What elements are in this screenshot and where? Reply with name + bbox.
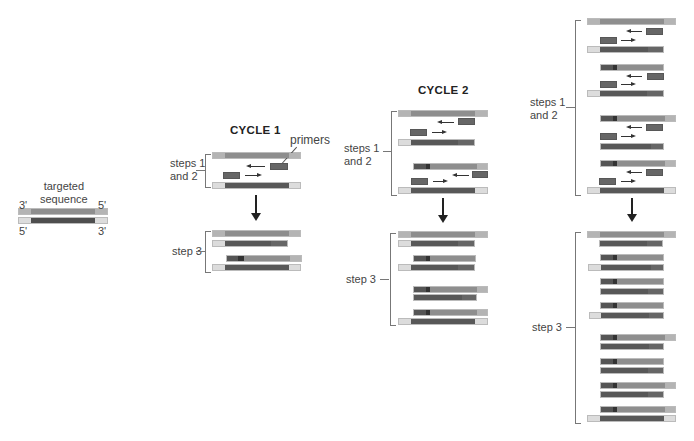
c1-s3-strand-2 — [212, 240, 288, 247]
down-arrow-icon — [442, 198, 444, 216]
c3-s3-strand — [587, 231, 676, 238]
primer-reverse — [647, 73, 664, 80]
left-arrow-icon — [250, 166, 265, 167]
end-5-bottom-label: 5' — [19, 225, 27, 238]
targeted-sequence-label: targeted sequence — [40, 180, 88, 206]
c2-s3-strand — [413, 255, 476, 262]
cycle-3-step-3-label: step 3 — [532, 321, 562, 334]
primer-forward — [411, 178, 428, 185]
cycle-1-title: CYCLE 1 — [230, 124, 281, 136]
c3-s3-strand — [588, 264, 664, 271]
left-arrow-icon — [630, 172, 642, 173]
c3-s3-strand — [600, 334, 676, 341]
left-arrow-icon — [630, 31, 642, 32]
down-arrow-icon — [631, 198, 633, 215]
right-arrow-icon — [433, 181, 444, 182]
c2-s12-strand — [398, 187, 488, 194]
primer-reverse — [458, 118, 475, 125]
pcr-diagram: targeted sequence 3' 5' 5' 3' CYCLE 1 pr… — [0, 0, 694, 441]
left-arrow-icon — [441, 122, 454, 123]
primer-forward — [600, 133, 617, 140]
c3-s3-strand — [600, 343, 664, 350]
cycle-2-steps-bracket — [391, 111, 397, 196]
c3-s3-strand — [599, 240, 663, 247]
c3-s12-strand — [587, 90, 664, 97]
primer-reverse — [646, 124, 663, 131]
c1-s3-strand-4 — [212, 264, 301, 271]
c2-s3-strand — [398, 240, 475, 247]
primer-reverse — [472, 171, 488, 178]
left-arrow-icon — [456, 175, 469, 176]
c2-s12-strand — [398, 139, 475, 146]
cycle-3-step3-bracket — [575, 232, 581, 424]
cycle-3-steps-bracket — [575, 20, 581, 196]
left-arrow-icon — [630, 127, 642, 128]
bracket-tick — [566, 107, 575, 108]
primer-reverse — [646, 28, 663, 35]
c2-s3-strand — [398, 264, 475, 271]
right-arrow-icon — [432, 132, 443, 133]
cycle-1-steps-bracket — [205, 154, 211, 188]
c3-s3-strand — [600, 254, 664, 261]
right-arrow-icon — [621, 84, 632, 85]
c3-s3-strand — [600, 302, 664, 309]
end-3-bottom-label: 3' — [98, 225, 106, 238]
right-arrow-icon — [621, 136, 632, 137]
c2-s3-strand — [413, 294, 477, 301]
c3-s12-strand — [587, 187, 676, 194]
c3-s3-strand — [589, 312, 664, 319]
c2-s12-strand — [413, 163, 488, 170]
cycle-2-steps-1-2-label: steps 1 and 2 — [344, 142, 379, 168]
bracket-tick — [566, 327, 575, 328]
right-arrow-icon — [621, 40, 632, 41]
c1-s3-strand-1 — [212, 230, 301, 237]
c3-s12-strand — [600, 115, 676, 122]
c2-s3-strand — [413, 286, 488, 293]
c3-s3-strand — [600, 382, 676, 389]
target-top-strand — [18, 208, 108, 215]
primer-reverse — [270, 163, 288, 170]
primer-forward — [223, 172, 240, 179]
bracket-tick — [196, 251, 205, 252]
c3-s3-strand — [600, 278, 664, 285]
c2-s3-strand — [398, 231, 488, 238]
down-arrow-icon — [255, 195, 257, 214]
c1-s12-bottom-strand — [212, 182, 301, 189]
c3-s3-strand — [600, 358, 664, 365]
c1-s12-top-strand — [212, 152, 301, 159]
c2-s3-strand — [413, 309, 488, 316]
c2-s12-strand — [398, 110, 488, 117]
bracket-tick — [196, 170, 205, 171]
c3-s12-strand — [600, 160, 676, 167]
cycle-2-step3-bracket — [390, 233, 396, 326]
c3-s12-strand — [587, 46, 664, 53]
c1-s3-strand-3 — [226, 255, 302, 262]
c3-s3-strand — [600, 367, 664, 374]
bracket-tick — [380, 279, 389, 280]
primer-forward — [600, 81, 617, 88]
c2-s3-strand — [398, 318, 488, 325]
primer-forward — [599, 178, 616, 185]
right-arrow-icon — [621, 181, 632, 182]
c3-s12-strand — [600, 143, 664, 150]
c3-s3-strand — [587, 415, 676, 422]
cycle-1-step3-bracket — [205, 231, 211, 273]
primer-forward — [410, 129, 427, 136]
primer-reverse — [646, 169, 663, 176]
right-arrow-icon — [245, 175, 258, 176]
c3-s12-strand — [587, 18, 676, 25]
c3-s3-strand — [600, 288, 664, 295]
target-bottom-strand — [18, 217, 108, 224]
c3-s3-strand — [600, 406, 676, 413]
primer-forward — [600, 37, 617, 44]
c3-s12-strand — [600, 64, 664, 71]
left-arrow-icon — [630, 76, 642, 77]
cycle-2-title: CYCLE 2 — [418, 84, 469, 96]
primers-label: primers — [290, 134, 330, 147]
c3-s3-strand — [600, 391, 664, 398]
cycle-2-step-3-label: step 3 — [346, 273, 376, 286]
cycle-3-steps-1-2-label: steps 1 and 2 — [530, 96, 565, 122]
